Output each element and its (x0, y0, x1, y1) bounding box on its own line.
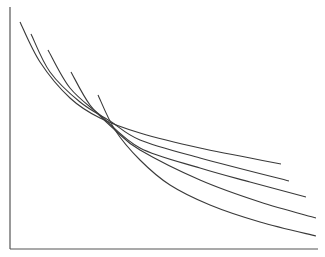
line-chart (0, 0, 325, 257)
curves-group (20, 22, 316, 236)
curve-1-line (20, 22, 281, 164)
curve-2-line (31, 34, 289, 181)
curve-4-line (71, 72, 316, 218)
curve-5-line (98, 95, 316, 236)
